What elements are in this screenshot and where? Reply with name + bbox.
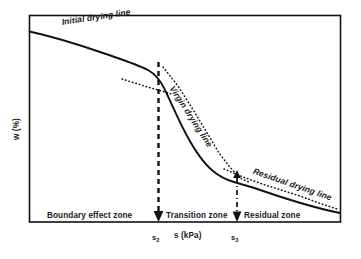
x-tick-s3-subscript: 3 xyxy=(235,237,238,243)
initial-line-tangent xyxy=(122,79,172,94)
x-tick-label-s2: s2 xyxy=(152,233,159,243)
zone-label-boundary-effect: Boundary effect zone xyxy=(47,211,132,220)
axis-frame xyxy=(30,16,341,223)
zone-label-transition: Transition zone xyxy=(166,211,228,220)
s2-arrow-down-icon xyxy=(154,211,164,222)
x-axis-label: s (kPa) xyxy=(174,231,202,240)
chart-plot-area xyxy=(0,0,361,259)
figure-container: Initial drying line Virgin drying line R… xyxy=(0,0,361,259)
zone-label-residual: Residual zone xyxy=(244,211,300,220)
y-axis-label: w (%) xyxy=(12,118,21,140)
s3-arrow-down-icon xyxy=(233,212,242,223)
x-tick-s2-subscript: 2 xyxy=(156,237,159,243)
x-tick-label-s3: s3 xyxy=(231,233,238,243)
